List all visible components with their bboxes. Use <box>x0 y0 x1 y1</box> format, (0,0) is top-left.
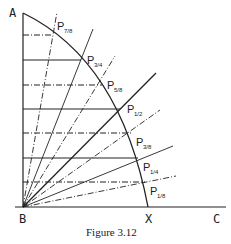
svg-text:1/2: 1/2 <box>134 111 143 117</box>
p-3-8-label: P 3/8 <box>136 136 152 150</box>
p-1-8-label: P 1/8 <box>150 185 166 199</box>
label-x: X <box>145 212 153 226</box>
svg-text:7/8: 7/8 <box>64 28 73 34</box>
svg-text:3/4: 3/4 <box>94 62 103 68</box>
figure-caption: Figure 3.12 <box>86 226 137 238</box>
figure-diagram: A B X C P 7/8 P 3/4 P 5/8 P 1/2 P 3/8 P … <box>0 0 231 244</box>
p-1-4-label: P 1/4 <box>143 161 159 175</box>
svg-text:5/8: 5/8 <box>114 87 123 93</box>
p-1-2-label: P 1/2 <box>127 103 143 117</box>
svg-text:1/4: 1/4 <box>150 169 159 175</box>
p-3-4-label: P 3/4 <box>87 54 103 68</box>
p-7-8-label: P 7/8 <box>57 20 73 34</box>
label-c: C <box>213 212 220 226</box>
p-5-8-label: P 5/8 <box>107 79 123 93</box>
svg-text:3/8: 3/8 <box>143 144 152 150</box>
label-b: B <box>19 212 26 226</box>
svg-text:1/8: 1/8 <box>157 193 166 199</box>
label-a: A <box>9 6 17 20</box>
